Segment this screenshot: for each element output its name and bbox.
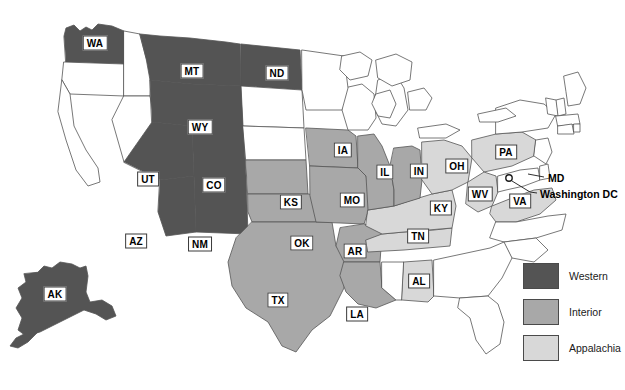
state-shape-ga (434, 242, 512, 298)
state-shape-ak-aleutians (10, 332, 38, 348)
state-shape-az (158, 176, 196, 236)
state-label-la: LA (346, 307, 368, 322)
callout-label-md: MD (548, 172, 564, 184)
state-label-pa: PA (495, 145, 517, 160)
state-shape-tx (228, 222, 348, 352)
states-layer (10, 24, 586, 354)
state-label-mt: MT (181, 64, 204, 79)
state-shape-md (498, 168, 540, 192)
legend-item-appalachia: Appalachia (523, 335, 623, 371)
legend-item-western: Western (523, 263, 623, 299)
state-shape-ca (58, 80, 100, 186)
state-shape-ct (558, 124, 574, 134)
state-shape-sd (241, 86, 304, 128)
state-label-il: IL (376, 165, 393, 180)
state-shape-me (564, 72, 586, 106)
state-label-ok: OK (290, 236, 313, 251)
state-label-ks: KS (280, 195, 302, 210)
map-legend: Western Interior Appalachia (523, 263, 623, 371)
state-label-wv: WV (468, 187, 493, 202)
us-region-map: WAMTNDWYUTCOAZNMAKIAILINMOKSOKARTXLAOHPA… (0, 0, 625, 390)
state-shape-or (62, 62, 124, 96)
lake-lake-erie (418, 124, 460, 138)
state-label-al: AL (408, 274, 430, 289)
state-shape-ri (574, 124, 580, 132)
legend-swatch-appalachia (523, 335, 559, 361)
state-shape-ks (246, 160, 308, 194)
legend-swatch-interior (523, 299, 559, 325)
state-label-in: IN (410, 164, 428, 179)
state-label-ak: AK (44, 287, 67, 302)
legend-label-appalachia: Appalachia (569, 335, 621, 361)
state-label-az: AZ (125, 234, 147, 249)
state-label-wa: WA (83, 36, 108, 51)
legend-label-western: Western (569, 263, 608, 289)
state-label-oh: OH (445, 159, 468, 174)
state-label-va: VA (509, 194, 531, 209)
state-label-nm: NM (188, 237, 212, 252)
state-label-ia: IA (334, 143, 352, 158)
state-shape-nj (534, 138, 552, 164)
state-label-ar: AR (344, 244, 367, 259)
state-label-ky: KY (430, 201, 452, 216)
state-shape-fl (458, 296, 504, 354)
lake-lake-huron (408, 88, 432, 110)
state-label-ut: UT (137, 172, 159, 187)
legend-label-interior: Interior (569, 299, 602, 325)
state-label-wy: WY (188, 120, 213, 135)
state-shape-vt (546, 98, 558, 116)
callout-label-dc: Washington DC (540, 188, 618, 200)
state-label-tn: TN (407, 229, 429, 244)
legend-item-interior: Interior (523, 299, 623, 335)
state-label-nd: ND (266, 66, 289, 81)
state-label-mo: MO (340, 193, 365, 208)
state-shape-mn (302, 50, 348, 110)
legend-swatch-western (523, 263, 559, 289)
state-label-co: CO (202, 178, 225, 193)
state-label-tx: TX (267, 293, 288, 308)
state-shape-ne (243, 126, 306, 160)
